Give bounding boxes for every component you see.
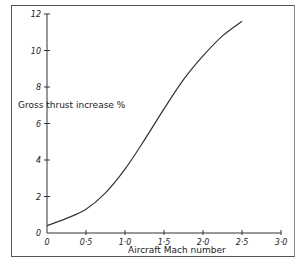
x-tick-label: 3·0	[275, 238, 288, 247]
y-tick-label: 0	[36, 229, 41, 238]
x-tick-label: 0	[44, 238, 49, 247]
y-tick-label: 4	[36, 156, 41, 165]
y-tick-label: 2	[36, 193, 41, 202]
y-tick-label: 8	[36, 83, 41, 92]
line-chart: 024681012 00·51·01·52·02·53·0 Gross thru…	[0, 0, 303, 268]
y-tick-label: 6	[36, 120, 41, 129]
x-tick-label: 2·5	[236, 238, 249, 247]
y-tick-label: 12	[31, 10, 41, 19]
x-tick-label: 0·5	[80, 238, 93, 247]
y-axis-label: Gross thrust increase %	[18, 100, 126, 110]
x-axis-label: Aircraft Mach number	[128, 245, 226, 255]
y-tick-label: 10	[31, 47, 41, 56]
axes	[47, 14, 281, 233]
thrust-curve	[47, 21, 242, 225]
